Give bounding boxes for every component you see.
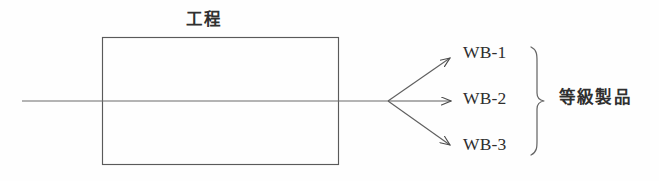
output-label-wb-1: WB-1 xyxy=(463,44,507,62)
process-flow-diagram: 工程 WB-1 WB-2 WB-3 等級製品 xyxy=(0,0,659,181)
group-brace xyxy=(531,47,544,155)
process-box-label: 工程 xyxy=(186,12,222,29)
output-label-wb-2: WB-2 xyxy=(463,90,507,108)
output-arrow-wb-3 xyxy=(388,101,450,145)
group-brace-label: 等級製品 xyxy=(559,90,632,107)
output-label-wb-3: WB-3 xyxy=(463,136,507,154)
output-arrow-wb-1 xyxy=(388,58,450,101)
